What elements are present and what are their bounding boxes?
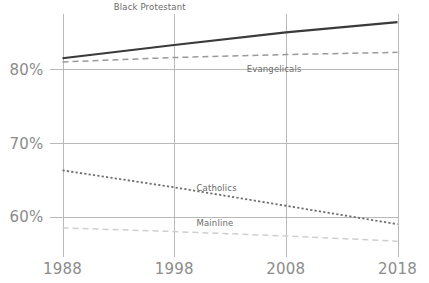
axis-tickmarks [64, 250, 399, 257]
x-tick-label-1988: 1988 [43, 260, 82, 278]
y-tick-label-70: 70% [10, 135, 44, 153]
x-axis-tick-labels: 1988199820082018 [43, 260, 417, 278]
y-tick-label-60: 60% [10, 208, 44, 226]
line-chart-figure: Black ProtestantEvangelicalsCatholicsMai… [0, 0, 429, 283]
series-lines-group [63, 22, 398, 241]
x-tick-label-2008: 2008 [266, 260, 305, 278]
series-label-mainline: Mainline [197, 218, 234, 228]
chart-canvas: Black ProtestantEvangelicalsCatholicsMai… [0, 0, 429, 283]
series-label-black-protestant: Black Protestant [114, 2, 186, 12]
series-line-evangelicals [63, 52, 398, 62]
x-tick-label-2018: 2018 [378, 260, 417, 278]
series-label-evangelicals: Evangelicals [247, 64, 302, 74]
vertical-gridlines [64, 14, 399, 250]
series-line-mainline [63, 228, 398, 241]
series-label-catholics: Catholics [197, 183, 238, 193]
series-line-catholics [63, 170, 398, 224]
x-tick-label-1998: 1998 [155, 260, 194, 278]
y-axis-tick-labels: 60%70%80% [10, 61, 44, 227]
y-tick-label-80: 80% [10, 61, 44, 79]
